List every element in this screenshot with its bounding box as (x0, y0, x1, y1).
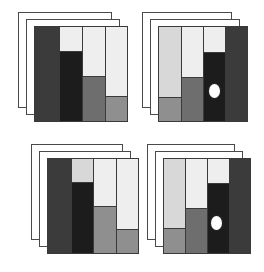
panel-bottom-right-segment-4-1 (230, 159, 251, 253)
panel-bottom-right-column-4 (230, 159, 251, 253)
panel-bottom-left-segment-2-2 (72, 182, 93, 253)
panel-top-left-segment-2-2 (60, 51, 82, 122)
panel-top-left-column-1 (35, 27, 60, 121)
panel-top-left-segment-4-2 (106, 96, 128, 121)
figure-canvas (0, 0, 264, 272)
panel-bottom-right-segment-3-1 (208, 159, 229, 183)
panel-bottom-left-column-1 (48, 159, 72, 253)
panel-top-right-column-2 (182, 27, 204, 121)
panel-bottom-right-segment-1-2 (164, 228, 185, 253)
panel-top-left-segment-1-1 (35, 27, 59, 121)
panel-top-right-segment-1-2 (159, 97, 181, 121)
panel-top-right-segment-2-1 (182, 27, 203, 77)
panel-bottom-left-segment-2-1 (72, 159, 93, 182)
panel-top-left-column-3 (83, 27, 106, 121)
panel-top-right-column-1 (159, 27, 182, 121)
panel-bottom-left-segment-3-2 (94, 206, 116, 253)
panel-top-left-column-4 (106, 27, 128, 121)
panel-bottom-right-segment-2-1 (186, 159, 207, 208)
panel-bottom-right-ellipse-marker (211, 216, 222, 230)
panel-bottom-left-column-4 (117, 159, 139, 253)
panel-top-left-card (34, 26, 128, 122)
panel-top-left-column-2 (60, 27, 83, 121)
panel-top-right-segment-4-1 (226, 27, 248, 121)
panel-bottom-left-segment-4-2 (117, 229, 139, 253)
panel-bottom-left-column-3 (94, 159, 117, 253)
panel-bottom-right-card (163, 158, 251, 254)
panel-bottom-left-segment-1-1 (48, 159, 71, 253)
panel-top-right-segment-3-1 (204, 27, 225, 52)
panel-top-left (34, 26, 128, 122)
panel-bottom-right-column-3 (208, 159, 230, 253)
panel-top-right-segment-2-2 (182, 77, 203, 121)
panel-top-left-segment-2-1 (60, 27, 82, 51)
panel-bottom-right-segment-2-2 (186, 208, 207, 253)
panel-top-right (158, 26, 248, 122)
panel-bottom-left-column-2 (72, 159, 94, 253)
panel-top-right-column-4 (226, 27, 248, 121)
panel-top-right-ellipse-marker (209, 84, 220, 98)
panel-top-left-segment-4-1 (106, 27, 128, 96)
panel-bottom-left-segment-3-1 (94, 159, 116, 206)
panel-bottom-right-column-2 (186, 159, 208, 253)
panel-top-left-segment-3-2 (83, 76, 105, 121)
panel-top-left-segment-3-1 (83, 27, 105, 76)
panel-top-right-card (158, 26, 248, 122)
panel-top-right-segment-1-1 (159, 27, 181, 97)
panel-bottom-left (47, 158, 139, 254)
panel-bottom-right-column-1 (164, 159, 186, 253)
panel-bottom-right-segment-1-1 (164, 159, 185, 228)
panel-bottom-left-segment-4-1 (117, 159, 139, 229)
panel-bottom-left-card (47, 158, 139, 254)
panel-top-right-column-3 (204, 27, 226, 121)
panel-bottom-right (163, 158, 251, 254)
